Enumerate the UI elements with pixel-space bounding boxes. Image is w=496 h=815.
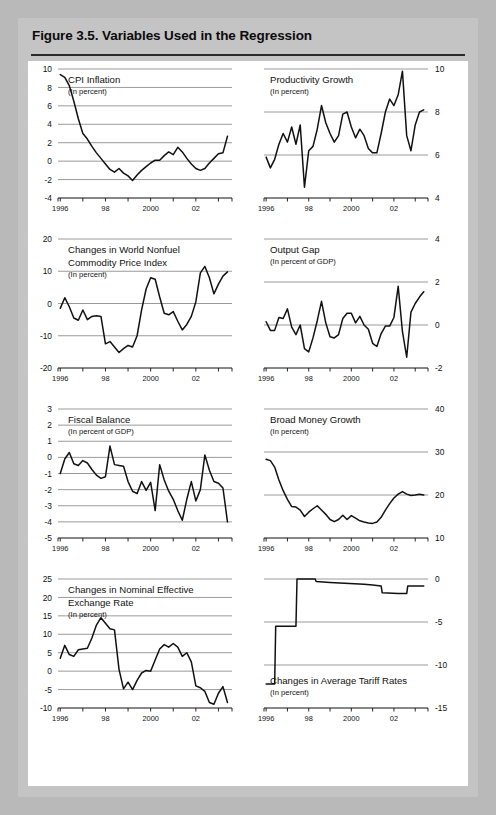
data-series-line xyxy=(266,286,424,357)
y-tick-label: -2 xyxy=(45,485,53,495)
chart-title: CPI Inflation xyxy=(68,74,120,85)
y-tick-label: 10 xyxy=(43,629,53,639)
chart-panel-exchange-rate: -10-50510152025199698200002Changes in No… xyxy=(28,571,246,734)
x-tick-label: 98 xyxy=(101,544,109,553)
y-tick-label: -5 xyxy=(435,617,443,627)
y-tick-label: -3 xyxy=(45,501,53,511)
y-tick-label: 25 xyxy=(43,574,53,584)
y-tick-label: 0 xyxy=(435,574,440,584)
y-tick-label: 10 xyxy=(43,64,53,74)
x-tick-label: 1996 xyxy=(52,374,68,383)
y-tick-label: -5 xyxy=(45,685,53,695)
x-tick-label: 02 xyxy=(192,374,200,383)
y-tick-label: 10 xyxy=(43,266,53,276)
x-tick-label: 02 xyxy=(192,204,200,213)
y-tick-label: 10 xyxy=(435,533,445,543)
x-tick-label: 98 xyxy=(305,544,313,553)
page-title: Figure 3.5. Variables Used in the Regres… xyxy=(32,28,312,43)
y-tick-label: 0 xyxy=(47,666,52,676)
y-tick-label: 5 xyxy=(47,648,52,658)
chart-panel-productivity-growth: 46810199698200002Productivity Growth(In … xyxy=(250,61,468,224)
title-divider xyxy=(31,54,465,56)
figure-frame: Figure 3.5. Variables Used in the Regres… xyxy=(18,18,478,797)
y-tick-label: 2 xyxy=(47,138,52,148)
y-tick-label: 8 xyxy=(47,83,52,93)
y-tick-label: -4 xyxy=(45,517,53,527)
y-tick-label: -15 xyxy=(435,703,447,713)
chart-panel-output-gap: -2024199698200002Output Gap(In percent o… xyxy=(250,231,468,394)
x-tick-label: 98 xyxy=(305,374,313,383)
x-tick-label: 2000 xyxy=(142,714,158,723)
figure-body: -4-20246810199698200002CPI Inflation(In … xyxy=(28,61,468,786)
chart-svg: -2024199698200002Output Gap(In percent o… xyxy=(250,231,468,394)
chart-subtitle: (In percent) xyxy=(270,87,309,96)
x-tick-label: 1996 xyxy=(258,204,274,213)
chart-subtitle: (In percent) xyxy=(68,270,107,279)
figure-header: Figure 3.5. Variables Used in the Regres… xyxy=(18,18,478,61)
x-tick-label: 98 xyxy=(305,714,313,723)
y-tick-label: 4 xyxy=(435,193,440,203)
x-tick-label: 98 xyxy=(101,204,109,213)
y-tick-label: -10 xyxy=(40,331,52,341)
y-tick-label: 4 xyxy=(47,119,52,129)
y-tick-label: 6 xyxy=(435,150,440,160)
chart-subtitle: (In percent) xyxy=(270,427,309,436)
chart-panel-cpi-inflation: -4-20246810199698200002CPI Inflation(In … xyxy=(28,61,246,224)
y-tick-label: -5 xyxy=(45,533,53,543)
x-tick-label: 2000 xyxy=(142,374,158,383)
x-tick-label: 1996 xyxy=(52,204,68,213)
data-series-line xyxy=(266,579,424,684)
y-tick-label: 3 xyxy=(47,404,52,414)
y-tick-label: 10 xyxy=(435,64,445,74)
x-tick-label: 2000 xyxy=(343,544,359,553)
chart-title: Productivity Growth xyxy=(270,74,353,85)
chart-title: Changes in World Nonfuel xyxy=(68,244,180,255)
chart-panel-broad-money-growth: 10203040199698200002Broad Money Growth(I… xyxy=(250,401,468,564)
chart-title: Exchange Rate xyxy=(68,597,134,608)
chart-subtitle: (In percent of GDP) xyxy=(68,427,134,436)
y-tick-label: 2 xyxy=(435,277,440,287)
chart-title: Broad Money Growth xyxy=(270,414,361,425)
chart-svg: -4-20246810199698200002CPI Inflation(In … xyxy=(28,61,246,224)
x-tick-label: 02 xyxy=(390,204,398,213)
y-tick-label: 2 xyxy=(47,420,52,430)
y-tick-label: 20 xyxy=(43,593,53,603)
chart-svg: 10203040199698200002Broad Money Growth(I… xyxy=(250,401,468,564)
y-tick-label: 20 xyxy=(43,234,53,244)
x-tick-label: 1996 xyxy=(258,714,274,723)
y-tick-label: 0 xyxy=(47,452,52,462)
x-tick-label: 02 xyxy=(390,714,398,723)
chart-svg: 46810199698200002Productivity Growth(In … xyxy=(250,61,468,224)
x-tick-label: 2000 xyxy=(343,204,359,213)
chart-panel-fiscal-balance: -5-4-3-2-10123199698200002Fiscal Balance… xyxy=(28,401,246,564)
x-tick-label: 2000 xyxy=(343,714,359,723)
x-tick-label: 2000 xyxy=(142,544,158,553)
chart-svg: -10-50510152025199698200002Changes in No… xyxy=(28,571,246,734)
data-series-line xyxy=(60,618,227,705)
x-tick-label: 02 xyxy=(192,714,200,723)
y-tick-label: -10 xyxy=(40,703,52,713)
y-tick-label: -2 xyxy=(435,363,443,373)
y-tick-label: 0 xyxy=(435,320,440,330)
chart-subtitle: (In percent) xyxy=(68,610,107,619)
y-tick-label: -10 xyxy=(435,660,447,670)
chart-title: Commodity Price Index xyxy=(68,257,167,268)
x-tick-label: 1996 xyxy=(258,544,274,553)
x-tick-label: 98 xyxy=(101,714,109,723)
x-tick-label: 1996 xyxy=(52,544,68,553)
y-tick-label: 20 xyxy=(435,490,445,500)
x-tick-label: 98 xyxy=(101,374,109,383)
y-tick-label: 40 xyxy=(435,404,445,414)
y-tick-label: 1 xyxy=(47,436,52,446)
y-tick-label: -2 xyxy=(45,175,53,185)
x-tick-label: 02 xyxy=(390,544,398,553)
y-tick-label: -20 xyxy=(40,363,52,373)
x-tick-label: 2000 xyxy=(142,204,158,213)
data-series-line xyxy=(60,266,227,352)
chart-panel-tariff-rates: -15-10-50199698200002Changes in Average … xyxy=(250,571,468,734)
chart-subtitle: (In percent of GDP) xyxy=(270,257,336,266)
chart-title: Fiscal Balance xyxy=(68,414,130,425)
chart-title: Changes in Nominal Effective xyxy=(68,584,194,595)
data-series-line xyxy=(266,459,424,523)
y-tick-label: 6 xyxy=(47,101,52,111)
